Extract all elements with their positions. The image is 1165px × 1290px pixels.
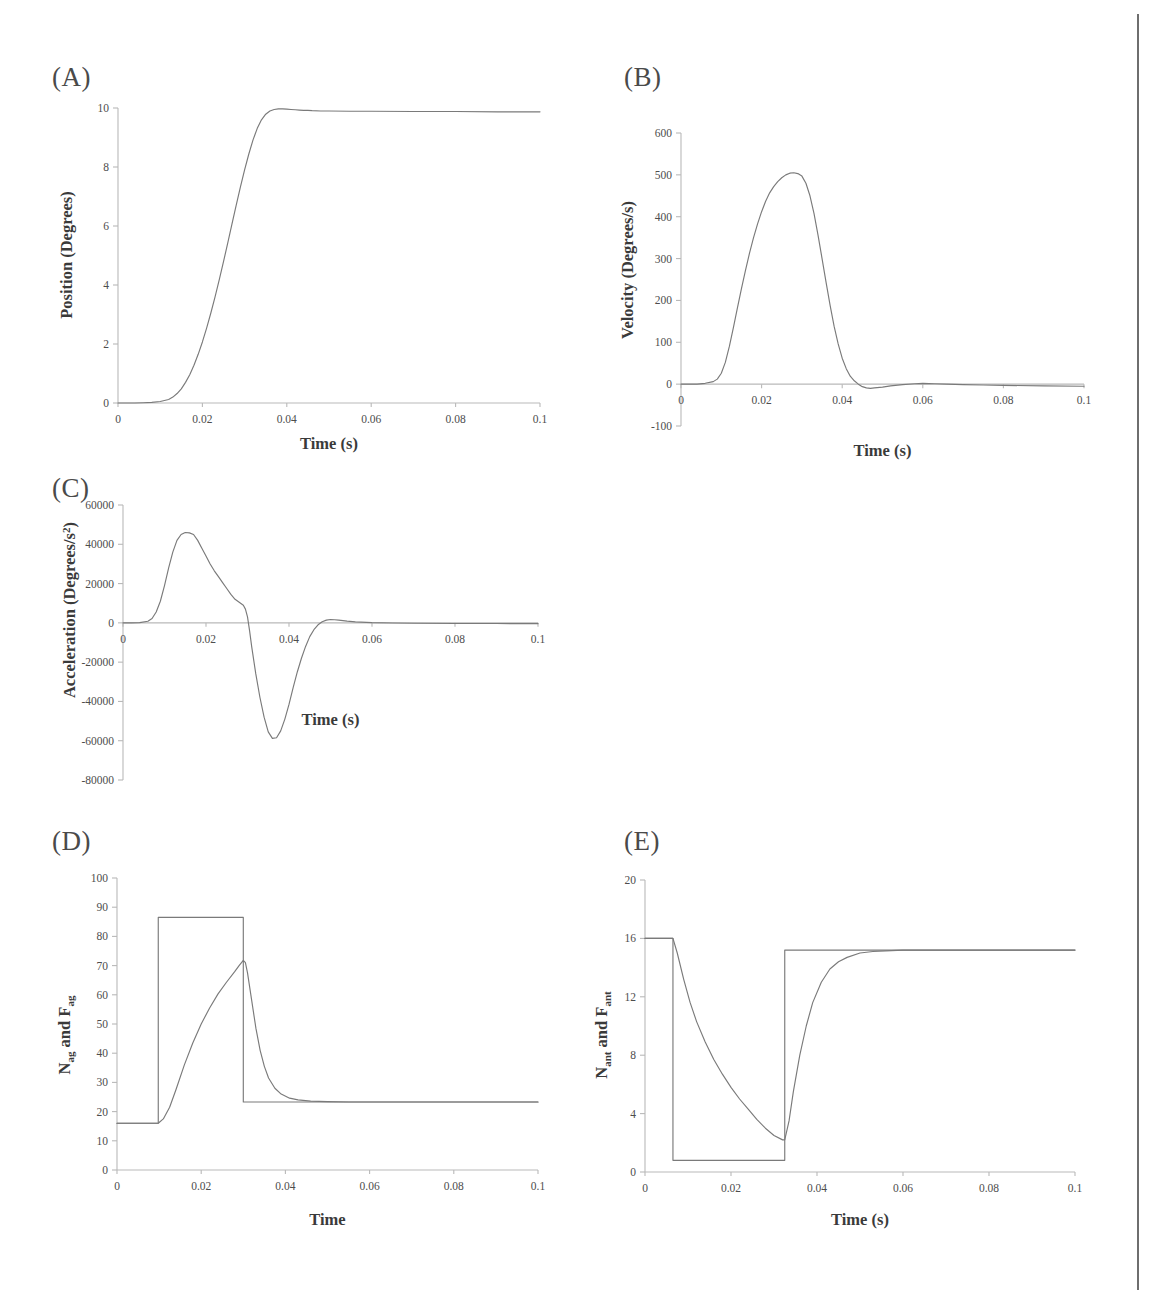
x-tick-label: 0.1	[1068, 1182, 1083, 1194]
panel-d-plot: 010203040506070809010000.020.040.060.080…	[0, 820, 580, 1290]
data-curve	[118, 109, 540, 403]
x-tick-label: 0.08	[446, 413, 466, 425]
panel-b-plot: -100010020030040050060000.020.040.060.08…	[585, 0, 1155, 470]
y-tick-label: 8	[103, 161, 109, 173]
y-axis-title: Nant and Fant	[592, 991, 613, 1079]
y-tick-label: 10	[98, 102, 110, 114]
y-tick-label: 80	[97, 930, 109, 942]
y-tick-label: 600	[655, 127, 673, 139]
y-tick-label: -60000	[81, 735, 114, 747]
y-tick-label: 30	[97, 1076, 109, 1088]
x-tick-label: 0.06	[362, 633, 382, 645]
x-tick-label: 0.1	[533, 413, 548, 425]
x-axis-title: Time	[309, 1210, 345, 1229]
data-curve	[123, 533, 538, 739]
y-tick-label: 0	[630, 1166, 636, 1178]
x-tick-label: 0.1	[1077, 394, 1092, 406]
y-tick-label: 0	[103, 397, 109, 409]
y-tick-label: 100	[91, 872, 109, 884]
x-tick-label: 0.04	[832, 394, 852, 406]
y-tick-label: 70	[97, 960, 109, 972]
panel-a: (A) 024681000.020.040.060.080.1Time (s)P…	[0, 0, 580, 470]
y-tick-label: 100	[655, 336, 673, 348]
y-tick-label: 4	[630, 1108, 636, 1120]
y-tick-label: 2	[103, 338, 109, 350]
y-tick-label: 60000	[85, 499, 114, 511]
data-curve	[645, 938, 1075, 1160]
x-tick-label: 0.02	[752, 394, 772, 406]
x-axis-title: Time (s)	[300, 434, 358, 453]
y-tick-label: 0	[102, 1164, 108, 1176]
y-tick-label: -40000	[81, 695, 114, 707]
x-tick-label: 0	[678, 394, 684, 406]
x-tick-label: 0	[114, 1180, 120, 1192]
y-tick-label: 16	[625, 932, 637, 944]
y-tick-label: 0	[108, 617, 114, 629]
y-tick-label: -20000	[81, 656, 114, 668]
x-axis-title: Time (s)	[854, 441, 912, 460]
data-curve	[645, 938, 1075, 1139]
panel-e-label: (E)	[624, 826, 660, 857]
y-tick-label: 200	[655, 294, 673, 306]
y-axis-title: Acceleration (Degrees/s2)	[60, 522, 79, 698]
x-tick-label: 0.06	[361, 413, 381, 425]
data-curve	[117, 917, 538, 1123]
panel-c: (C) -80000-60000-40000-20000020000400006…	[0, 465, 580, 820]
y-tick-label: 400	[655, 211, 673, 223]
y-tick-label: 40000	[85, 538, 114, 550]
x-tick-label: 0.06	[913, 394, 933, 406]
x-tick-label: 0.02	[721, 1182, 741, 1194]
y-tick-label: 20	[97, 1106, 109, 1118]
panel-e: (E) 04812162000.020.040.060.080.1Time (s…	[585, 820, 1155, 1290]
x-axis-title: Time (s)	[302, 710, 360, 729]
y-tick-label: 40	[97, 1047, 109, 1059]
y-axis-title: Nag and Fag	[55, 995, 76, 1074]
y-axis-title: Velocity (Degrees/s)	[618, 201, 637, 339]
data-curve	[117, 960, 538, 1123]
y-tick-label: 300	[655, 253, 673, 265]
y-tick-label: 60	[97, 989, 109, 1001]
y-tick-label: 0	[666, 378, 672, 390]
y-tick-label: 20000	[85, 578, 114, 590]
y-tick-label: 8	[630, 1049, 636, 1061]
panel-b: (B) -100010020030040050060000.020.040.06…	[585, 0, 1155, 470]
y-tick-label: 4	[103, 279, 109, 291]
x-tick-label: 0.08	[979, 1182, 999, 1194]
panel-d-label: (D)	[52, 826, 91, 857]
x-tick-label: 0.04	[277, 413, 297, 425]
x-tick-label: 0.08	[993, 394, 1013, 406]
x-tick-label: 0.08	[444, 1180, 464, 1192]
x-tick-label: 0.04	[807, 1182, 827, 1194]
x-tick-label: 0.06	[893, 1182, 913, 1194]
figure-sheet: (A) 024681000.020.040.060.080.1Time (s)P…	[0, 0, 1165, 1290]
x-tick-label: 0	[642, 1182, 648, 1194]
panel-e-plot: 04812162000.020.040.060.080.1Time (s)Nan…	[585, 820, 1155, 1290]
y-tick-label: 10	[97, 1135, 109, 1147]
y-tick-label: -100	[651, 420, 672, 432]
x-tick-label: 0.02	[191, 1180, 211, 1192]
panel-a-label: (A)	[52, 62, 91, 93]
x-tick-label: 0.02	[196, 633, 216, 645]
x-tick-label: 0.04	[279, 633, 299, 645]
x-tick-label: 0.08	[445, 633, 465, 645]
panel-c-plot: -80000-60000-40000-200000200004000060000…	[0, 465, 580, 820]
y-tick-label: 6	[103, 220, 109, 232]
panel-d: (D) 010203040506070809010000.020.040.060…	[0, 820, 580, 1290]
y-tick-label: 50	[97, 1018, 109, 1030]
x-tick-label: 0.06	[360, 1180, 380, 1192]
y-tick-label: 90	[97, 901, 109, 913]
x-tick-label: 0	[115, 413, 121, 425]
x-axis-title: Time (s)	[831, 1210, 889, 1229]
x-tick-label: 0.04	[275, 1180, 295, 1192]
panel-c-label: (C)	[52, 473, 90, 504]
data-curve	[681, 173, 1084, 389]
x-tick-label: 0	[120, 633, 126, 645]
y-tick-label: 20	[625, 874, 637, 886]
x-tick-label: 0.1	[531, 633, 546, 645]
x-tick-label: 0.02	[192, 413, 212, 425]
x-tick-label: 0.1	[531, 1180, 546, 1192]
panel-b-label: (B)	[624, 62, 662, 93]
y-tick-label: 500	[655, 169, 673, 181]
y-tick-label: -80000	[81, 774, 114, 786]
y-tick-label: 12	[625, 991, 637, 1003]
